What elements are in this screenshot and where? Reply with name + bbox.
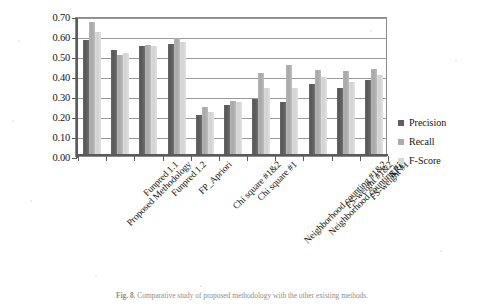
legend-label: Recall xyxy=(409,137,435,147)
bar-f-score xyxy=(208,112,214,154)
x-axis-tick xyxy=(219,156,220,161)
y-axis-tick xyxy=(72,158,77,159)
bar-group xyxy=(191,18,219,154)
legend-label: Precision xyxy=(409,118,446,128)
bar-group xyxy=(360,18,388,154)
y-axis-tick xyxy=(72,18,77,19)
bar-group xyxy=(247,18,275,154)
bar-group xyxy=(134,18,162,154)
y-axis-tick xyxy=(72,138,77,139)
scan-artifact xyxy=(95,275,97,277)
bar-f-score xyxy=(123,53,129,154)
bar-f-score xyxy=(377,75,383,154)
y-axis-tick-label: 0.60 xyxy=(52,33,70,44)
legend-item-f-score[interactable]: F-Score xyxy=(398,156,446,166)
y-axis-tick xyxy=(72,58,77,59)
y-axis-tick xyxy=(72,118,77,119)
figure-caption: Fig. 8. Comparative study of proposed me… xyxy=(62,291,422,300)
x-axis-tick xyxy=(78,156,79,161)
figure-container: 0.000.100.200.300.400.500.600.70 Propose… xyxy=(0,0,480,307)
y-axis-tick-label: 0.30 xyxy=(52,93,70,104)
bar-f-score xyxy=(180,42,186,154)
x-axis-tick xyxy=(332,156,333,161)
legend-swatch-icon xyxy=(398,158,404,164)
scan-artifact xyxy=(455,60,457,62)
x-axis-tick xyxy=(360,156,361,161)
y-axis-tick xyxy=(72,98,77,99)
bar-f-score xyxy=(349,82,355,154)
y-axis-tick xyxy=(72,78,77,79)
x-axis-tick xyxy=(303,156,304,161)
scan-artifact xyxy=(12,120,14,122)
bar-group xyxy=(106,18,134,154)
x-axis-tick xyxy=(247,156,248,161)
legend-item-precision[interactable]: Precision xyxy=(398,118,446,128)
x-axis-label-0: Proposed Methodology xyxy=(126,160,194,228)
legend-item-recall[interactable]: Recall xyxy=(398,137,446,147)
y-axis-tick-label: 0.10 xyxy=(52,133,70,144)
bar-f-score xyxy=(292,88,298,154)
bar-f-score xyxy=(95,32,101,154)
x-axis-tick xyxy=(191,156,192,161)
x-axis-tick xyxy=(163,156,164,161)
x-axis-tick xyxy=(134,156,135,161)
legend-label: F-Score xyxy=(409,156,441,166)
bar-f-score xyxy=(151,46,157,154)
legend-swatch-icon xyxy=(398,120,404,126)
bar-f-score xyxy=(236,102,242,154)
x-axis-line xyxy=(76,154,388,156)
bar-group xyxy=(163,18,191,154)
y-axis-tick-label: 0.00 xyxy=(52,153,70,164)
y-axis-tick-label: 0.50 xyxy=(52,53,70,64)
y-axis-tick-label: 0.40 xyxy=(52,73,70,84)
y-axis-tick-label: 0.70 xyxy=(52,13,70,24)
bar-group xyxy=(78,18,106,154)
bar-f-score xyxy=(321,77,327,154)
bar-groups xyxy=(78,18,386,154)
figure-caption-label: Fig. 8. xyxy=(116,291,136,300)
scan-artifact xyxy=(440,250,442,252)
bar-f-score xyxy=(264,88,270,154)
bar-group xyxy=(332,18,360,154)
y-axis-tick xyxy=(72,38,77,39)
legend-swatch-icon xyxy=(398,139,404,145)
figure-caption-text: Comparative study of proposed methodolog… xyxy=(137,291,368,300)
chart-plot-area: 0.000.100.200.300.400.500.600.70 xyxy=(75,17,387,157)
scan-artifact xyxy=(30,200,32,202)
scan-artifact xyxy=(18,40,20,42)
bar-group xyxy=(275,18,303,154)
bar-group xyxy=(303,18,331,154)
chart-legend: PrecisionRecallF-Score xyxy=(398,118,446,166)
x-axis-tick xyxy=(106,156,107,161)
bar-group xyxy=(219,18,247,154)
y-axis-tick-label: 0.20 xyxy=(52,113,70,124)
scan-artifact xyxy=(200,285,202,287)
